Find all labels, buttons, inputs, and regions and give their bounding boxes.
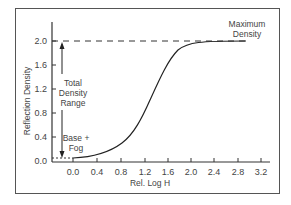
total-density-range-annotation: Total Density Range bbox=[59, 78, 88, 108]
svg-text:0.4: 0.4 bbox=[91, 167, 104, 177]
svg-text:Base +: Base + bbox=[63, 133, 90, 143]
x-tick-labels: 0.0 0.4 0.8 1.2 1.6 2.0 2.4 2.8 3.2 bbox=[67, 167, 268, 177]
svg-text:2.0: 2.0 bbox=[185, 167, 198, 177]
arrow-up-icon bbox=[60, 42, 65, 49]
svg-text:0.4: 0.4 bbox=[34, 132, 47, 142]
max-density-annotation: Maximum Density bbox=[229, 19, 266, 39]
base-fog-annotation: Base + Fog bbox=[63, 133, 90, 153]
svg-text:1.6: 1.6 bbox=[162, 167, 175, 177]
svg-text:Density: Density bbox=[233, 29, 262, 39]
svg-text:1.6: 1.6 bbox=[34, 60, 47, 70]
svg-text:0.8: 0.8 bbox=[34, 108, 47, 118]
svg-text:Density: Density bbox=[59, 88, 88, 98]
characteristic-curve bbox=[73, 41, 246, 158]
svg-text:0.0: 0.0 bbox=[67, 167, 80, 177]
svg-text:1.2: 1.2 bbox=[139, 167, 152, 177]
x-axis-title: Rel. Log H bbox=[130, 178, 170, 188]
svg-text:Maximum: Maximum bbox=[229, 19, 266, 29]
svg-text:Range: Range bbox=[60, 98, 85, 108]
svg-text:1.2: 1.2 bbox=[34, 84, 47, 94]
y-axis-title: Reflection Density bbox=[22, 66, 32, 135]
svg-text:2.0: 2.0 bbox=[34, 36, 47, 46]
characteristic-curve-chart: 2.0 1.6 1.2 0.8 0.4 0.0 0.0 0.4 0.8 1.2 … bbox=[0, 0, 291, 205]
svg-text:2.4: 2.4 bbox=[208, 167, 221, 177]
arrow-down-icon bbox=[60, 151, 65, 158]
svg-text:Fog: Fog bbox=[69, 143, 84, 153]
svg-text:0.0: 0.0 bbox=[34, 156, 47, 166]
y-tick-labels: 2.0 1.6 1.2 0.8 0.4 0.0 bbox=[34, 36, 47, 166]
svg-text:0.8: 0.8 bbox=[115, 167, 128, 177]
svg-text:2.8: 2.8 bbox=[232, 167, 245, 177]
svg-text:Total: Total bbox=[64, 78, 82, 88]
svg-text:3.2: 3.2 bbox=[255, 167, 268, 177]
